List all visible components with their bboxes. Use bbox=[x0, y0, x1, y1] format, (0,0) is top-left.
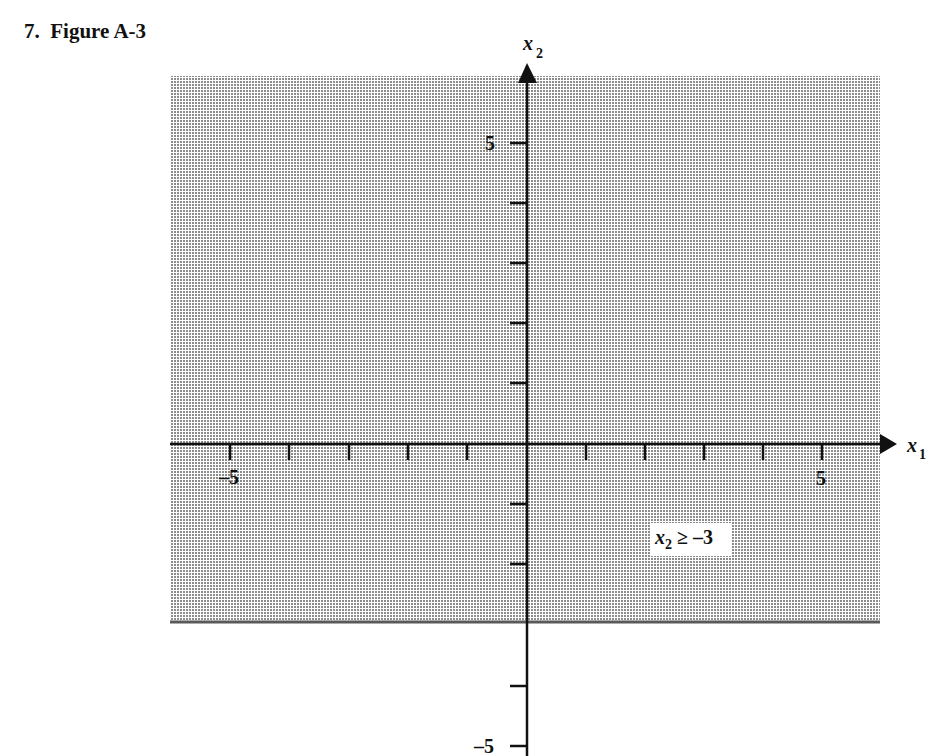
region-label-var: x bbox=[655, 526, 665, 548]
y-axis-label: x bbox=[522, 32, 533, 54]
shaded-region bbox=[170, 76, 880, 622]
y-axis-label-sub: 2 bbox=[536, 46, 543, 61]
y-tick-label-neg5: –5 bbox=[473, 735, 494, 756]
x-axis-arrow-icon bbox=[880, 434, 897, 454]
region-label-relation: ≥ –3 bbox=[672, 526, 713, 548]
x-axis-label: x bbox=[906, 434, 917, 456]
x-tick-label-neg5: –5 bbox=[218, 466, 239, 488]
y-tick-label-5: 5 bbox=[485, 132, 495, 154]
inequality-graph: –5 5 5 –5 x 2 x 1 bbox=[0, 0, 943, 756]
x-axis-label-sub: 1 bbox=[919, 447, 926, 462]
region-inequality-label: x2 ≥ –3 bbox=[655, 526, 713, 553]
region-label-sub: 2 bbox=[665, 537, 672, 552]
x-tick-label-5: 5 bbox=[816, 467, 826, 489]
y-axis-arrow-icon bbox=[518, 63, 537, 83]
